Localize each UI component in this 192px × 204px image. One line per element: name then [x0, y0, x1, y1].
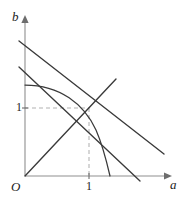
a-axis-unit-tick-label: 1 — [86, 180, 92, 192]
geometry-diagram — [0, 0, 192, 204]
b-axis-arrowhead-icon — [21, 15, 28, 23]
origin-label: O — [11, 180, 20, 193]
ascending-line-through-origin — [25, 79, 116, 176]
a-axis-label: a — [170, 178, 177, 191]
b-axis-label: b — [12, 10, 19, 23]
b-axis-unit-tick-label: 1 — [16, 101, 22, 113]
lines-group — [19, 41, 164, 181]
figure-canvas: b a O 1 1 — [0, 0, 192, 204]
upper-descending-line — [19, 41, 164, 154]
